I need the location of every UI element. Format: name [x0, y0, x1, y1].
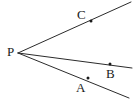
ray-p-to-c — [18, 2, 131, 53]
geometry-canvas — [0, 0, 133, 99]
point-label-c: C — [77, 8, 86, 21]
point-marker-a — [87, 77, 90, 80]
point-label-b: B — [106, 67, 115, 80]
point-label-a: A — [76, 81, 85, 94]
geometry-figure: P C B A — [0, 0, 133, 99]
vertex-label-p: P — [7, 45, 14, 58]
point-marker-c — [90, 20, 93, 23]
